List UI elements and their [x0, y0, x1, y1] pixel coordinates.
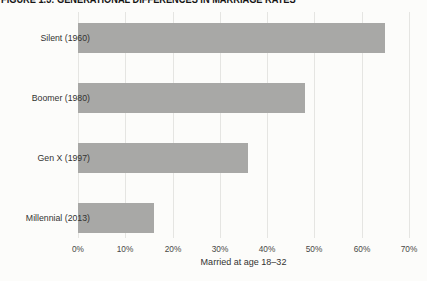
x-tick-50: 50%: [296, 244, 333, 254]
x-tick-40: 40%: [249, 244, 286, 254]
x-tick-60: 60%: [344, 244, 381, 254]
x-axis-title: Married at age 18–32: [86, 256, 400, 267]
bar-gen-x-1997: [78, 143, 248, 173]
x-tick-0: 0%: [60, 244, 97, 254]
figure-page: { "figure_title": "FIGURE 1.3: GENERATIO…: [0, 0, 427, 281]
x-tick-10: 10%: [107, 244, 144, 254]
category-label-gen-x-1997: Gen X (1997): [0, 152, 90, 163]
x-tick-20: 20%: [155, 244, 192, 254]
bar-chart-plot-area: [78, 12, 409, 238]
category-label-silent-1960: Silent (1960): [0, 32, 90, 43]
figure-title: FIGURE 1.3: GENERATIONAL DIFFERENCES IN …: [1, 0, 296, 5]
x-tick-70: 70%: [391, 244, 427, 254]
x-tick-30: 30%: [202, 244, 239, 254]
category-label-boomer-1980: Boomer (1980): [0, 92, 90, 103]
bar-silent-1960: [78, 23, 385, 53]
category-label-millennial-2013: Millennial (2013): [0, 212, 90, 223]
bar-boomer-1980: [78, 83, 305, 113]
gridline-70: [409, 12, 410, 238]
